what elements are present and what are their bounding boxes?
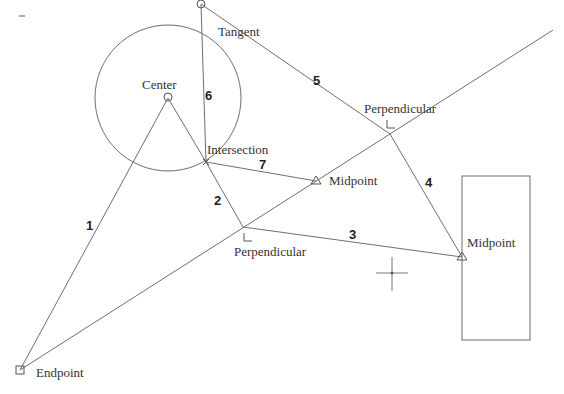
segment-number-7: 7: [259, 157, 266, 172]
crosshair-cursor-icon: [376, 257, 408, 291]
segment-number-2: 2: [214, 193, 221, 208]
construction-line[interactable]: [20, 30, 553, 370]
segment-4[interactable]: [390, 134, 462, 257]
segment-center-intersection[interactable]: [168, 98, 206, 162]
segment-number-3: 3: [349, 227, 356, 242]
rectangle-shape[interactable]: [462, 176, 530, 340]
segment-number-5: 5: [313, 73, 320, 88]
segment-1[interactable]: [20, 98, 168, 370]
segment-6[interactable]: [201, 4, 206, 162]
cad-drawing-canvas[interactable]: Tangent Center Intersection Perpendicula…: [0, 0, 564, 394]
label-midpoint-rect: Midpoint: [467, 235, 516, 250]
label-perpendicular-bottom: Perpendicular: [234, 244, 307, 259]
label-endpoint: Endpoint: [36, 365, 84, 380]
segment-number-4: 4: [425, 175, 433, 190]
label-midpoint-mid: Midpoint: [329, 173, 378, 188]
perpendicular-bottom-marker-icon: [244, 233, 252, 241]
perpendicular-top-marker-icon: [387, 120, 395, 128]
segment-2[interactable]: [206, 162, 243, 227]
segment-number-6: 6: [205, 88, 212, 103]
label-center: Center: [142, 77, 177, 92]
segment-number-1: 1: [86, 218, 93, 233]
center-marker-icon: [164, 93, 172, 101]
label-tangent: Tangent: [218, 24, 260, 39]
label-intersection: Intersection: [207, 142, 269, 157]
label-perpendicular-top: Perpendicular: [364, 101, 437, 116]
